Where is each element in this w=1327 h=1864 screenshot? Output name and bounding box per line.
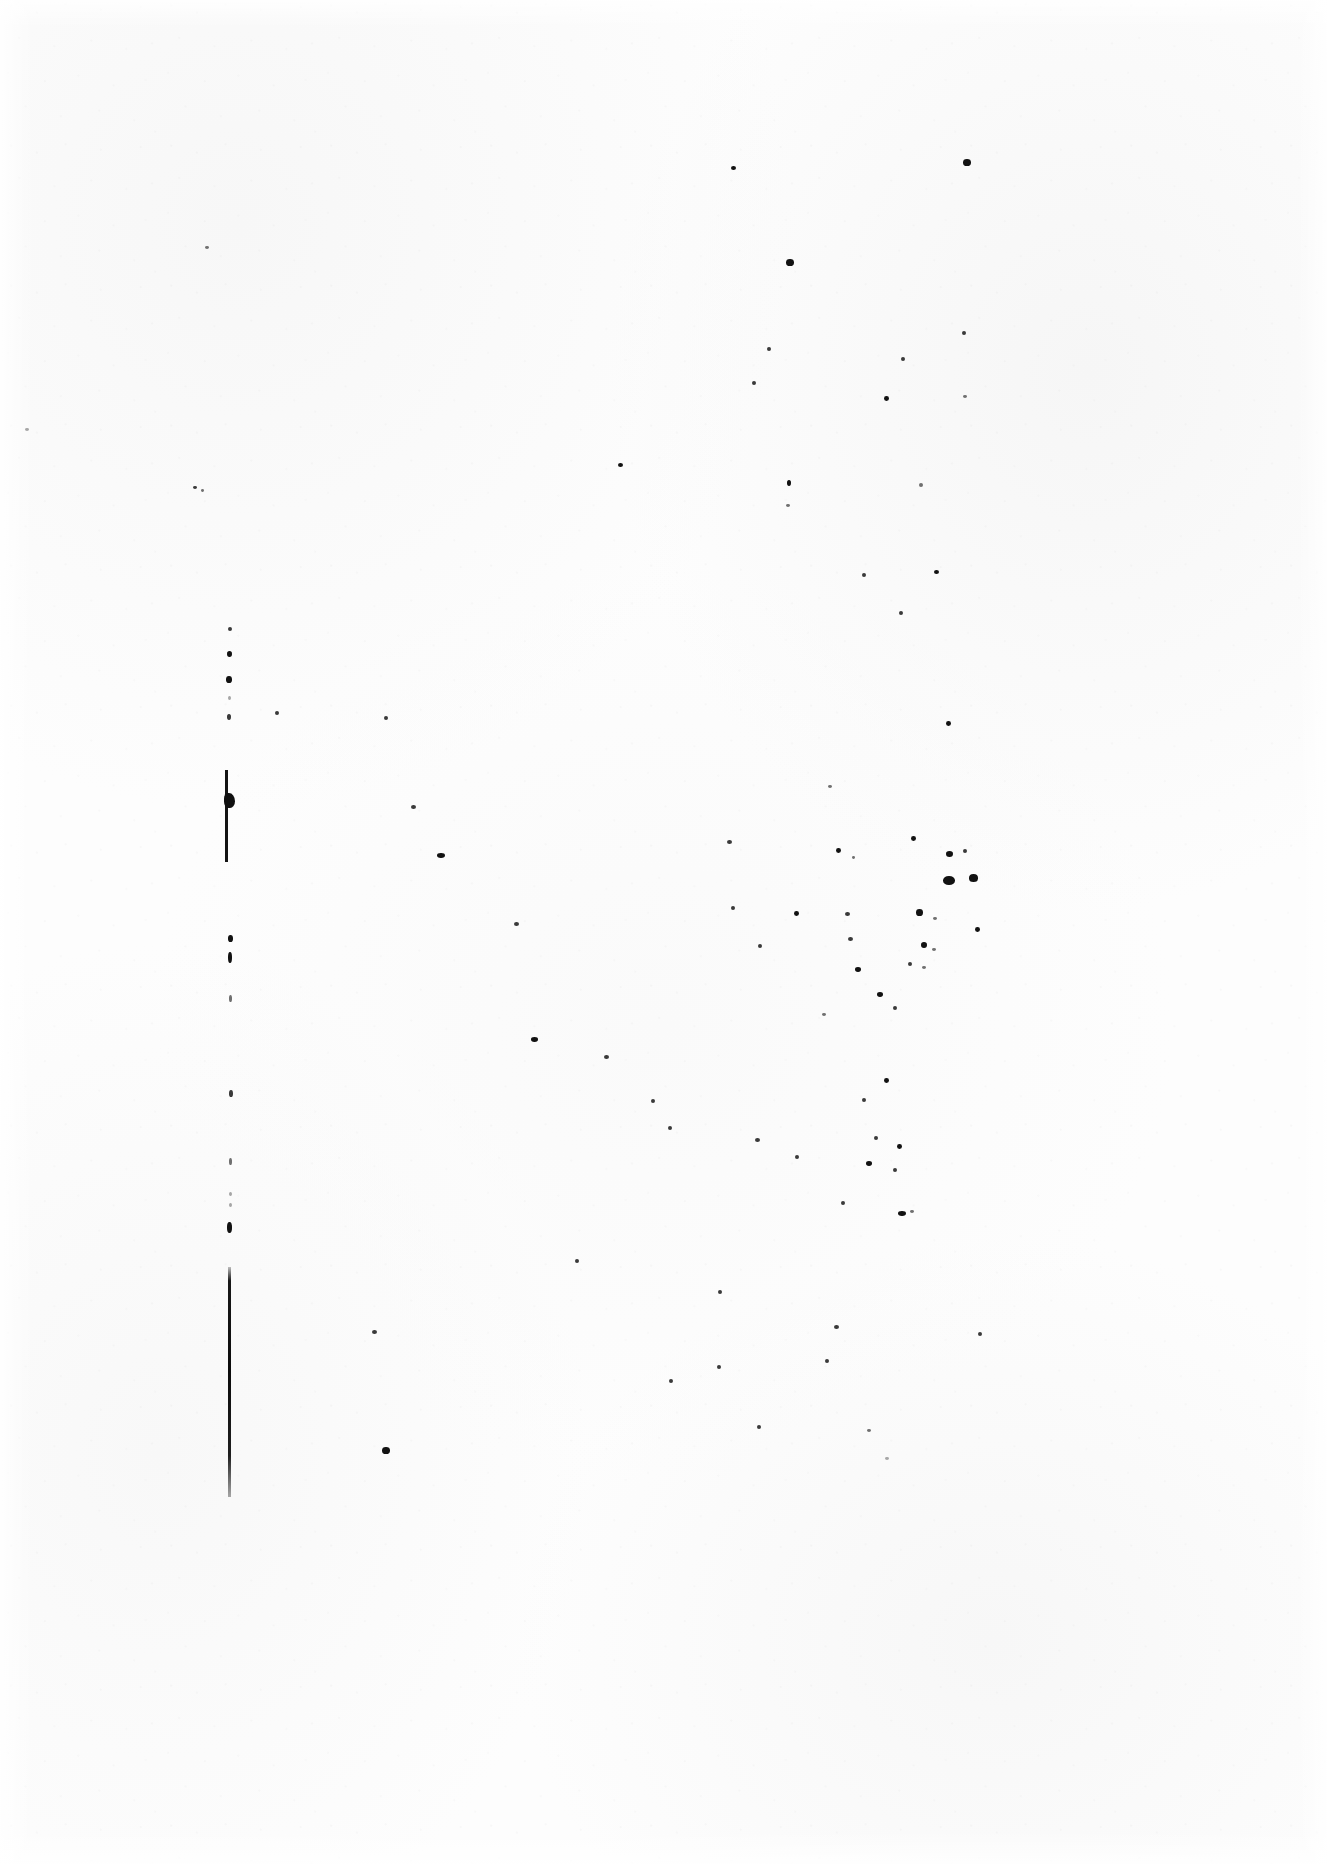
- gutter-mark: [227, 651, 232, 657]
- gutter-ink-streak: [225, 770, 228, 862]
- gutter-mark: [227, 714, 231, 720]
- gutter-artifact-column: [0, 0, 1327, 1864]
- gutter-ink-rule: [228, 1267, 231, 1497]
- gutter-mark: [229, 1203, 232, 1207]
- gutter-mark: [229, 1192, 232, 1196]
- gutter-mark: [229, 1158, 232, 1165]
- ink-marks-layer: [0, 0, 1327, 1864]
- gutter-mark: [229, 1090, 233, 1097]
- scanned-page: [0, 0, 1327, 1864]
- gutter-mark: [226, 676, 232, 683]
- gutter-mark: [228, 627, 232, 631]
- gutter-mark: [228, 952, 232, 963]
- gutter-mark: [229, 995, 232, 1002]
- gutter-mark: [227, 1222, 232, 1233]
- gutter-ink-blob: [224, 793, 235, 808]
- gutter-mark: [228, 696, 231, 700]
- gutter-mark: [228, 935, 233, 942]
